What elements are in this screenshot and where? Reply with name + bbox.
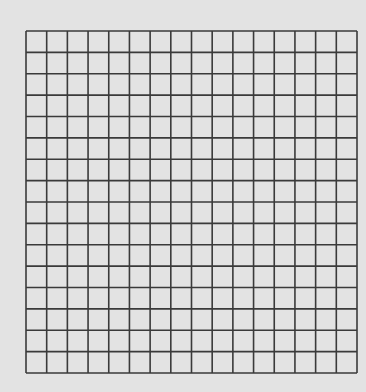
grid-lines xyxy=(25,30,358,374)
square-grid xyxy=(26,31,357,373)
